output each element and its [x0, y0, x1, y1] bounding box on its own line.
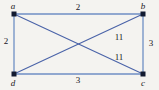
edge-weight-b-c: 3 — [149, 39, 154, 48]
vertex-label-a: a — [11, 2, 16, 11]
edge-weight-a-c: 11 — [115, 53, 124, 62]
vertex-marker-a — [12, 12, 17, 17]
edge-weight-a-b: 2 — [76, 3, 81, 12]
vertex-marker-d — [12, 72, 17, 77]
vertex-label-c: c — [141, 79, 145, 88]
edge-weight-b-d: 11 — [115, 33, 124, 42]
vertex-label-b: b — [141, 2, 146, 11]
edge-weight-d-c: 3 — [76, 76, 81, 85]
edge-weight-a-d: 2 — [4, 37, 9, 46]
weighted-graph-figure: a b c d 2 2 3 3 11 11 — [0, 0, 159, 90]
vertex-marker-b — [141, 12, 146, 17]
vertex-label-d: d — [11, 79, 16, 88]
vertex-marker-c — [141, 72, 146, 77]
